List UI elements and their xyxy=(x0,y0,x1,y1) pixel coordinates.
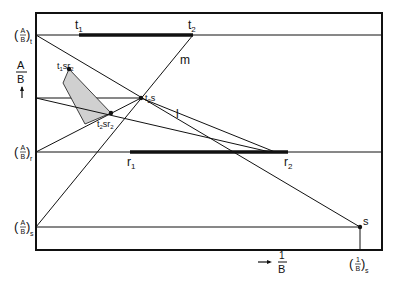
label-t1sr2: t1sr2 xyxy=(57,61,74,72)
label-r2: r2 xyxy=(284,155,293,171)
label-line-m: m xyxy=(180,53,190,67)
ratio-diagram: t1 t2 r1 r2 m l t1sr2 t2s t2sr2 s ( A B … xyxy=(0,0,394,287)
point-t2s xyxy=(139,96,143,100)
svg-text:s: s xyxy=(365,267,369,274)
svg-text:A: A xyxy=(17,59,25,71)
svg-text:B: B xyxy=(278,263,285,275)
y-axis-label: A B xyxy=(16,59,27,98)
ylabel-level-r: ( A B ) r xyxy=(14,144,33,162)
label-t2s: t2s xyxy=(145,93,156,104)
svg-text:(: ( xyxy=(14,144,19,159)
point-t2sr2 xyxy=(109,111,113,115)
svg-text:1: 1 xyxy=(356,256,360,263)
label-s: s xyxy=(363,215,369,227)
label-t2: t2 xyxy=(188,18,196,34)
svg-text:(: ( xyxy=(349,256,354,271)
svg-text:B: B xyxy=(21,36,26,43)
label-t1: t1 xyxy=(75,18,83,34)
svg-text:B: B xyxy=(356,265,361,272)
plot-frame xyxy=(36,13,382,250)
x-tick-label-s: ( 1 B ) s xyxy=(349,256,369,274)
svg-text:A: A xyxy=(21,27,26,34)
svg-text:s: s xyxy=(30,230,34,237)
ylabel-level-s: ( A B ) s xyxy=(14,219,34,237)
line-t2s-to-r2 xyxy=(141,98,275,152)
right-arrow-icon xyxy=(258,260,272,264)
shaded-region xyxy=(63,69,111,124)
svg-text:B: B xyxy=(21,153,26,160)
svg-text:1: 1 xyxy=(279,250,285,261)
ylabel-level-t: ( A B ) t xyxy=(14,27,32,45)
line-m xyxy=(36,35,193,227)
svg-text:(: ( xyxy=(14,27,19,42)
svg-text:(: ( xyxy=(14,219,19,234)
label-t2sr2: t2sr2 xyxy=(97,119,114,130)
svg-text:B: B xyxy=(17,73,24,85)
svg-text:B: B xyxy=(21,228,26,235)
svg-text:t: t xyxy=(30,38,32,45)
point-s xyxy=(358,225,362,229)
label-r1: r1 xyxy=(127,155,136,171)
svg-text:A: A xyxy=(21,219,26,226)
svg-text:A: A xyxy=(21,144,26,151)
x-axis-label: 1 B xyxy=(258,250,287,275)
svg-text:r: r xyxy=(30,155,33,162)
label-line-l: l xyxy=(176,107,179,121)
line-t-to-s xyxy=(36,35,360,227)
line-l xyxy=(36,98,270,152)
up-arrow-icon xyxy=(20,86,24,98)
